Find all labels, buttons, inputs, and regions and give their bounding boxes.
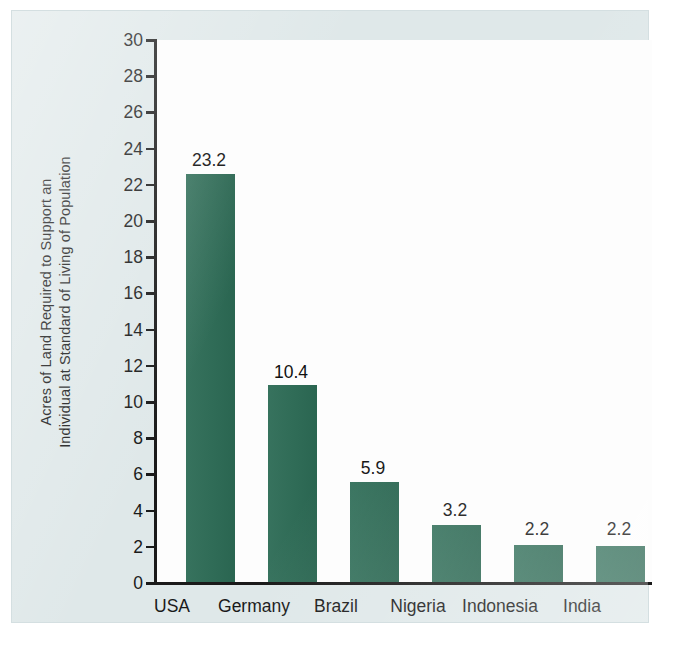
x-label-india: India (527, 595, 637, 617)
y-tick-label-2: 2 (107, 536, 143, 558)
y-tick-label-8: 8 (107, 427, 143, 449)
bar-group-germany: 10.4 (257, 40, 337, 582)
y-tick-mark-28 (146, 75, 157, 78)
y-tick-mark-30 (146, 39, 157, 42)
y-axis-title-line-2: Individual at Standard of Living of Popu… (56, 22, 75, 582)
bar-value-germany: 10.4 (249, 362, 333, 382)
y-tick-mark-4 (146, 510, 157, 513)
y-tick-label-30: 30 (107, 29, 143, 51)
y-tick-label-6: 6 (107, 463, 143, 485)
y-tick-mark-20 (146, 220, 157, 223)
y-tick-label-4: 4 (107, 500, 143, 522)
y-tick-mark-8 (146, 437, 157, 440)
y-tick-label-0: 0 (107, 572, 143, 594)
y-tick-label-16: 16 (107, 282, 143, 304)
y-tick-mark-14 (146, 329, 157, 332)
bar-value-nigeria: 3.2 (413, 500, 497, 520)
y-tick-mark-12 (146, 365, 157, 368)
y-tick-mark-24 (146, 148, 157, 151)
y-tick-mark-16 (146, 292, 157, 295)
bar-value-usa: 23.2 (167, 150, 251, 170)
bar-value-india: 2.2 (577, 519, 661, 539)
bar-group-usa: 23.2 (175, 40, 255, 582)
bar-group-india: 2.2 (585, 40, 665, 582)
y-tick-label-18: 18 (107, 246, 143, 268)
bar-group-brazil: 5.9 (339, 40, 419, 582)
bar-value-brazil: 5.9 (331, 458, 415, 478)
y-tick-label-26: 26 (107, 101, 143, 123)
y-tick-mark-10 (146, 401, 157, 404)
y-tick-label-28: 28 (107, 65, 143, 87)
bar-usa[interactable] (186, 174, 235, 582)
bar-nigeria[interactable] (432, 525, 481, 582)
bar-group-indonesia: 2.2 (503, 40, 583, 582)
chart-card: Acres of Land Required to Support an Ind… (12, 11, 648, 622)
bar-germany[interactable] (268, 385, 317, 582)
y-tick-label-20: 20 (107, 210, 143, 232)
figure: Acres of Land Required to Support an Ind… (0, 0, 674, 649)
bar-value-indonesia: 2.2 (495, 519, 579, 539)
bar-brazil[interactable] (350, 482, 399, 582)
y-tick-mark-18 (146, 256, 157, 259)
bar-india[interactable] (596, 546, 645, 582)
bar-indonesia[interactable] (514, 545, 563, 583)
y-tick-mark-22 (146, 184, 157, 187)
y-tick-mark-26 (146, 111, 157, 114)
y-tick-label-24: 24 (107, 138, 143, 160)
y-axis-title-line-1: Acres of Land Required to Support an (37, 22, 56, 582)
y-tick-mark-2 (146, 546, 157, 549)
y-tick-mark-6 (146, 473, 157, 476)
y-tick-mark-0 (146, 582, 157, 585)
y-tick-label-12: 12 (107, 355, 143, 377)
plot-area: 30 28 26 24 22 20 (154, 40, 652, 585)
y-axis-title: Acres of Land Required to Support an Ind… (37, 22, 75, 582)
y-tick-label-14: 14 (107, 319, 143, 341)
bar-group-nigeria: 3.2 (421, 40, 501, 582)
y-tick-label-10: 10 (107, 391, 143, 413)
y-tick-label-22: 22 (107, 174, 143, 196)
